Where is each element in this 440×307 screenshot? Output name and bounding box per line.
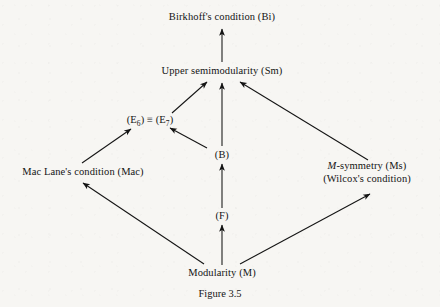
figure-caption: Figure 3.5 (198, 288, 241, 299)
node-birkhoff-label: Birkhoff's condition (Bi) (169, 11, 275, 22)
node-mac-lane-label: Mac Lane's condition (Mac) (22, 166, 143, 177)
node-modularity-label: Modularity (M) (188, 267, 256, 278)
edge-e7-to-sm (172, 82, 207, 113)
node-b: (B) (215, 149, 229, 162)
node-m-symmetry-italic-m: M (328, 160, 337, 171)
node-m-symmetry-rest: -symmetry (Ms) (336, 160, 406, 171)
figure-3-5-diagram: Birkhoff's condition (Bi) Upper semimodu… (0, 0, 440, 307)
node-upper-semimodularity-label: Upper semimodularity (Sm) (162, 65, 283, 76)
edge-m-to-ms (240, 194, 370, 264)
edge-b-to-e7 (170, 128, 207, 148)
node-e7-subscript: 7 (166, 118, 170, 127)
node-mac-lane-condition: Mac Lane's condition (Mac) (22, 166, 143, 179)
node-upper-semimodularity: Upper semimodularity (Sm) (162, 65, 283, 78)
node-f-label: (F) (215, 210, 228, 221)
node-e6-e7-mid: ) ≡ (E (141, 114, 166, 125)
node-f: (F) (215, 210, 228, 223)
edge-ms-to-sm (240, 82, 368, 160)
edge-m-to-mac (83, 183, 204, 264)
node-e6-e7-prefix: (E (127, 114, 137, 125)
node-b-label: (B) (215, 149, 229, 160)
node-m-symmetry-wilcox-line: (Wilcox's condition) (323, 172, 411, 185)
edge-mac-to-e6 (82, 129, 131, 163)
node-birkhoff-condition: Birkhoff's condition (Bi) (169, 11, 275, 24)
node-m-symmetry: M-symmetry (Ms) (Wilcox's condition) (323, 160, 411, 185)
node-e6-equiv-e7: (E6) ≡ (E7) (127, 114, 174, 127)
node-modularity: Modularity (M) (188, 267, 256, 280)
node-e6-e7-suffix: ) (170, 114, 174, 125)
node-e6-subscript: 6 (137, 118, 141, 127)
